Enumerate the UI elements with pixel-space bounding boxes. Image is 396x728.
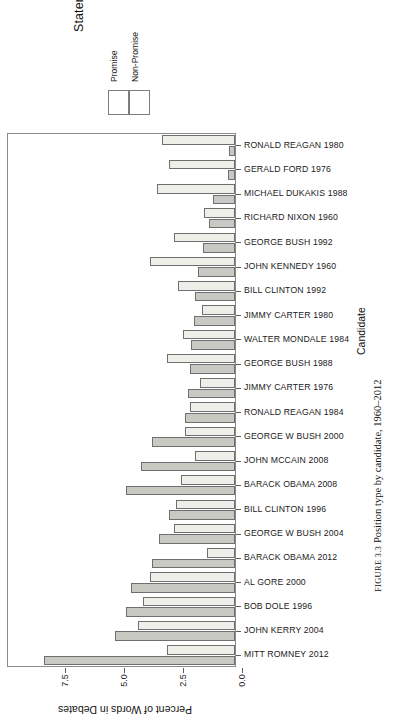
y-axis-tick — [236, 412, 241, 413]
bar-promise[interactable] — [190, 364, 235, 374]
bar-non-promise[interactable] — [176, 500, 235, 510]
bar-non-promise[interactable] — [195, 451, 235, 461]
bar-pair — [8, 255, 235, 279]
bar-non-promise[interactable] — [157, 184, 235, 194]
legend-swatch-non-promise — [129, 90, 150, 115]
bar-promise[interactable] — [203, 243, 235, 253]
category-label: BARACK OBAMA 2008 — [244, 478, 362, 491]
bar-promise[interactable] — [191, 340, 235, 350]
bar-non-promise[interactable] — [150, 572, 235, 582]
y-axis-tick — [236, 558, 241, 559]
bar-pair — [8, 134, 235, 158]
y-axis-title: Candidate — [355, 265, 371, 355]
category-label: MITT ROMNEY 2012 — [244, 648, 362, 661]
bar-pair — [8, 522, 235, 546]
bar-non-promise[interactable] — [169, 160, 235, 170]
bar-non-promise[interactable] — [174, 233, 235, 243]
x-axis-tick-label: 0.0 — [235, 668, 248, 694]
bar-promise[interactable] — [213, 195, 235, 205]
bar-pair — [8, 595, 235, 619]
bar-pair — [8, 450, 235, 474]
category-label: GEORGE BUSH 1992 — [244, 236, 362, 249]
bar-promise[interactable] — [44, 656, 235, 666]
bar-non-promise[interactable] — [181, 475, 235, 485]
bar-non-promise[interactable] — [150, 257, 235, 267]
y-axis-tick — [236, 267, 241, 268]
y-axis-tick — [236, 388, 241, 389]
y-axis-tick — [236, 364, 241, 365]
bar-non-promise[interactable] — [162, 135, 235, 145]
legend: Statement Type Promise Non-Promise — [86, 22, 156, 134]
bar-non-promise[interactable] — [174, 524, 235, 534]
y-axis-ticks — [236, 133, 242, 667]
category-label: GEORGE BUSH 1988 — [244, 357, 362, 370]
y-axis-tick — [236, 145, 241, 146]
x-axis-tick-label: 2.5 — [176, 668, 189, 694]
bar-pair — [8, 474, 235, 498]
legend-key-label: Non-Promise — [130, 2, 144, 82]
bar-promise[interactable] — [126, 486, 235, 496]
bar-non-promise[interactable] — [167, 354, 235, 364]
y-axis-tick — [236, 461, 241, 462]
bar-non-promise[interactable] — [204, 208, 235, 218]
bar-non-promise[interactable] — [167, 645, 235, 655]
plot-area — [7, 133, 236, 667]
bar-promise[interactable] — [131, 583, 235, 593]
bar-non-promise[interactable] — [185, 427, 235, 437]
category-label: BOB DOLE 1996 — [244, 600, 362, 613]
bar-non-promise[interactable] — [200, 378, 235, 388]
bar-promise[interactable] — [159, 534, 235, 544]
y-axis-tick — [236, 291, 241, 292]
legend-keys: Promise Non-Promise — [108, 22, 152, 134]
category-label: RONALD REAGAN 1984 — [244, 406, 362, 419]
bar-group — [8, 134, 235, 666]
bar-promise[interactable] — [169, 510, 235, 520]
bar-non-promise[interactable] — [207, 548, 235, 558]
x-axis-tick-label: 7.5 — [58, 668, 71, 694]
bar-promise[interactable] — [126, 607, 235, 617]
bar-non-promise[interactable] — [143, 597, 235, 607]
bar-promise[interactable] — [195, 292, 235, 302]
y-axis-tick — [236, 582, 241, 583]
category-label: BILL CLINTON 1996 — [244, 503, 362, 516]
bar-promise[interactable] — [209, 219, 235, 229]
category-label: JOHN KERRY 2004 — [244, 624, 362, 637]
bar-promise[interactable] — [198, 267, 235, 277]
legend-title: Statement Type — [72, 0, 88, 32]
bar-pair — [8, 183, 235, 207]
x-axis-title: Percent of Words in Debates — [10, 700, 240, 716]
category-label: GERALD FORD 1976 — [244, 163, 362, 176]
bar-promise[interactable] — [229, 146, 235, 156]
category-label: BARACK OBAMA 2012 — [244, 551, 362, 564]
bar-promise[interactable] — [152, 437, 235, 447]
bar-non-promise[interactable] — [138, 621, 235, 631]
bar-promise[interactable] — [188, 389, 235, 399]
category-label: RICHARD NIXON 1960 — [244, 211, 362, 224]
bar-non-promise[interactable] — [202, 305, 235, 315]
bar-non-promise[interactable] — [183, 330, 235, 340]
bar-pair — [8, 425, 235, 449]
bar-non-promise[interactable] — [178, 281, 235, 291]
category-label: BILL CLINTON 1992 — [244, 284, 362, 297]
y-axis-tick — [236, 194, 241, 195]
category-label: JIMMY CARTER 1980 — [244, 309, 362, 322]
y-axis-tick — [236, 315, 241, 316]
bar-promise[interactable] — [228, 170, 235, 180]
y-axis-tick — [236, 436, 241, 437]
x-axis-tick-labels: 0.02.55.07.5 — [7, 674, 236, 700]
y-axis-tick — [236, 606, 241, 607]
bar-promise[interactable] — [194, 316, 235, 326]
bar-promise[interactable] — [185, 413, 235, 423]
category-label: AL GORE 2000 — [244, 576, 362, 589]
category-label: WALTER MONDALE 1984 — [244, 333, 362, 346]
bar-pair — [8, 328, 235, 352]
bar-promise[interactable] — [115, 631, 235, 641]
category-label: MICHAEL DUKAKIS 1988 — [244, 187, 362, 200]
bar-non-promise[interactable] — [190, 402, 235, 412]
bar-pair — [8, 280, 235, 304]
y-axis-tick — [236, 339, 241, 340]
category-label: JOHN KENNEDY 1960 — [244, 260, 362, 273]
bar-promise[interactable] — [141, 462, 235, 472]
y-axis-tick — [236, 485, 241, 486]
bar-promise[interactable] — [152, 559, 235, 569]
